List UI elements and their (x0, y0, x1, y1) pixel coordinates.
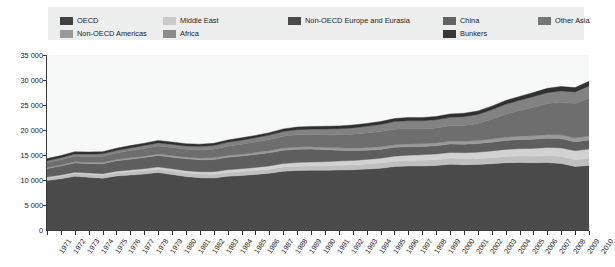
x-axis-tick-label: 1975 (113, 237, 129, 255)
x-axis-tick-label: 1979 (168, 237, 184, 255)
x-axis-tick-mark (367, 231, 368, 235)
x-axis-tick-mark (172, 231, 173, 235)
legend-item-africa: Africa (163, 28, 199, 39)
x-axis-tick-label: 1986 (266, 237, 282, 255)
area-series-group (47, 55, 589, 230)
x-axis-tick-label: 1973 (85, 237, 101, 255)
x-axis-tick-mark (589, 231, 590, 235)
y-axis-tick-label: 5 000 (25, 201, 44, 210)
y-axis-tick-label: 10 000 (20, 176, 43, 185)
x-axis-tick-mark (242, 231, 243, 235)
legend-label: Other Asia (555, 17, 590, 25)
legend-item-non-oecd-europe-and-eurasia: Non-OECD Europe and Eurasia (288, 15, 410, 26)
y-axis-tick-label: 0 (39, 226, 43, 235)
x-axis-tick-label: 1985 (252, 237, 268, 255)
x-axis-tick-mark (103, 231, 104, 235)
y-axis-tick-label: 30 000 (20, 76, 43, 85)
x-axis-tick-label: 1977 (140, 237, 156, 255)
legend-item-middle-east: Middle East (163, 15, 219, 26)
x-axis-tick-label: 1996 (404, 237, 420, 255)
x-axis-tick-mark (130, 231, 131, 235)
x-axis-tick-mark (144, 231, 145, 235)
x-axis-tick-label: 1982 (210, 237, 226, 255)
legend-item-oecd: OECD (60, 15, 98, 26)
legend-item-china: China (443, 15, 479, 26)
x-axis-tick-mark (89, 231, 90, 235)
x-axis-tick-label: 2004 (516, 237, 532, 255)
x-axis-line (46, 230, 589, 231)
x-axis-tick-label: 2005 (530, 237, 546, 255)
x-axis-tick-label: 1998 (432, 237, 448, 255)
x-axis-tick-label: 1997 (418, 237, 434, 255)
x-axis-tick-mark (297, 231, 298, 235)
x-axis-tick-label: 1980 (182, 237, 198, 255)
x-axis-tick-mark (186, 231, 187, 235)
legend-label: Non-OECD Europe and Eurasia (305, 17, 410, 25)
x-axis-tick-label: 1981 (196, 237, 212, 255)
y-axis-tick-label: 35 000 (20, 51, 43, 60)
x-axis-tick-mark (116, 231, 117, 235)
x-axis-tick-label: 1993 (363, 237, 379, 255)
x-axis-tick-label: 1972 (71, 237, 87, 255)
x-axis-tick-label: 2006 (543, 237, 559, 255)
x-axis-tick-mark (214, 231, 215, 235)
x-axis-tick-mark (408, 231, 409, 235)
legend-swatch-icon (60, 30, 73, 38)
x-axis-tick-mark (436, 231, 437, 235)
x-axis-tick-mark (561, 231, 562, 235)
x-axis-tick-label: 1994 (377, 237, 393, 255)
legend-swatch-icon (443, 17, 456, 25)
y-axis-tick-label: 15 000 (20, 151, 43, 160)
x-axis-tick-label: 2007 (557, 237, 573, 255)
x-axis-tick-mark (478, 231, 479, 235)
x-axis-tick-mark (464, 231, 465, 235)
x-axis-tick-mark (75, 231, 76, 235)
y-axis-tick-label: 25 000 (20, 101, 43, 110)
x-axis-tick-mark (61, 231, 62, 235)
legend-item-non-oecd-americas: Non-OECD Americas (60, 28, 147, 39)
x-axis-tick-label: 1984 (238, 237, 254, 255)
x-axis-tick-mark (520, 231, 521, 235)
x-axis-tick-mark (283, 231, 284, 235)
x-axis-tick-label: 2010 (599, 237, 615, 255)
x-axis-tick-label: 1999 (446, 237, 462, 255)
x-axis-tick-mark (339, 231, 340, 235)
x-axis-tick-label: 1983 (224, 237, 240, 255)
legend-swatch-icon (443, 30, 456, 38)
x-axis-tick-mark (506, 231, 507, 235)
x-axis-tick-mark (381, 231, 382, 235)
x-axis-tick-mark (422, 231, 423, 235)
chart-legend: OECDNon-OECD AmericasMiddle EastAfricaNo… (48, 7, 584, 40)
y-axis: 05 00010 00015 00020 00025 00030 00035 0… (0, 44, 48, 234)
x-axis-tick-label: 1976 (127, 237, 143, 255)
x-axis-tick-label: 1991 (335, 237, 351, 255)
x-axis-tick-label: 2003 (502, 237, 518, 255)
x-axis-tick-mark (394, 231, 395, 235)
x-axis-tick-label: 1988 (293, 237, 309, 255)
x-axis-tick-mark (450, 231, 451, 235)
x-axis-tick-mark (200, 231, 201, 235)
x-axis-tick-label: 1989 (307, 237, 323, 255)
legend-label: OECD (77, 17, 98, 25)
x-axis-tick-label: 1995 (391, 237, 407, 255)
x-axis-tick-label: 1978 (154, 237, 170, 255)
legend-label: Non-OECD Americas (77, 30, 147, 38)
x-axis-tick-mark (158, 231, 159, 235)
x-axis-tick-mark (228, 231, 229, 235)
legend-swatch-icon (538, 17, 551, 25)
x-axis-tick-label: 2009 (585, 237, 601, 255)
x-axis-tick-label: 2000 (460, 237, 476, 255)
legend-swatch-icon (163, 17, 176, 25)
stacked-area-plot (47, 55, 589, 230)
x-axis-tick-mark (533, 231, 534, 235)
legend-swatch-icon (163, 30, 176, 38)
x-axis-tick-mark (47, 231, 48, 235)
plot-area: 05 00010 00015 00020 00025 00030 00035 0… (0, 44, 600, 267)
legend-swatch-icon (60, 17, 73, 25)
x-axis-tick-mark (269, 231, 270, 235)
x-axis-tick-label: 1992 (349, 237, 365, 255)
x-axis-tick-mark (575, 231, 576, 235)
x-axis-tick-mark (325, 231, 326, 235)
legend-item-bunkers: Bunkers (443, 28, 487, 39)
